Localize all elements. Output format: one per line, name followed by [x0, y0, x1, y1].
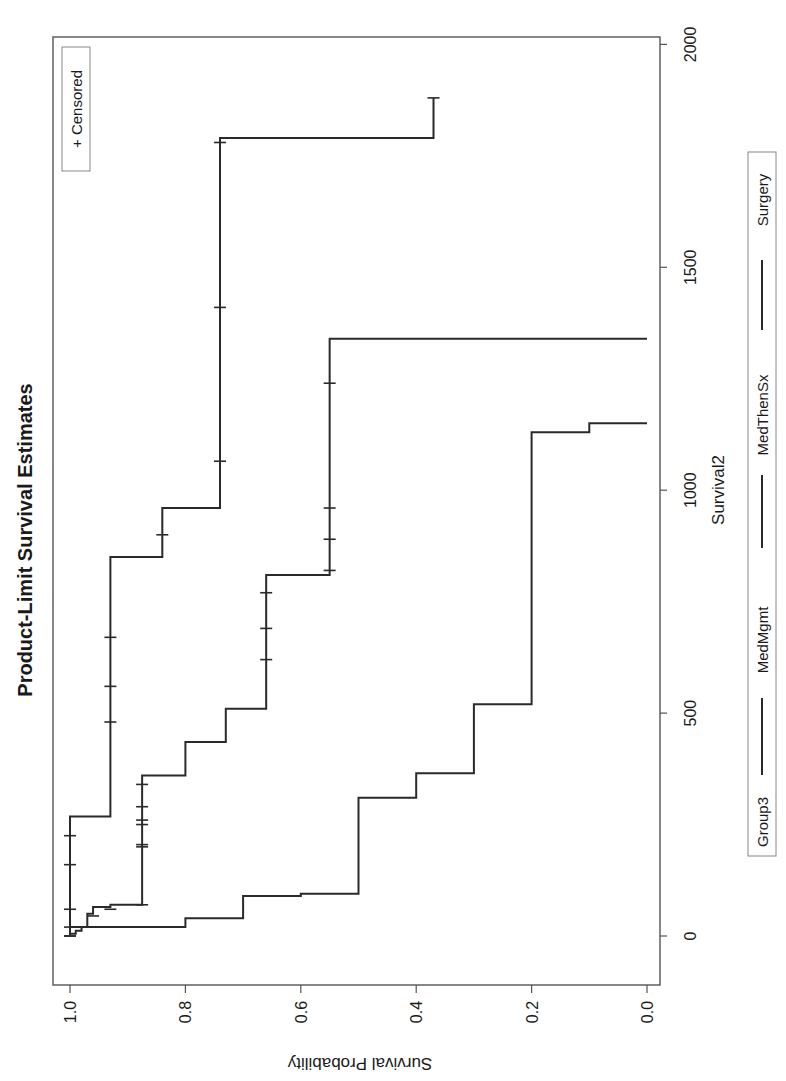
censored-legend: + Censored: [62, 47, 90, 171]
y-tick-label: 0.4: [408, 1001, 425, 1023]
y-axis: 0.00.20.40.60.81.0: [62, 985, 656, 1023]
legend-entry-medthensx: MedThenSx: [754, 374, 771, 455]
plot-frame: [53, 37, 660, 985]
x-axis-label: Survival2: [709, 455, 728, 525]
survival-curves: [64, 98, 647, 936]
y-axis-label: Survival Probability: [287, 1054, 432, 1073]
curve-medmgmt: [70, 423, 647, 936]
x-tick-label: 0: [682, 931, 699, 940]
x-tick-label: 1000: [682, 472, 699, 508]
x-tick-label: 2000: [682, 27, 699, 63]
survival-chart: Product-Limit Survival Estimates + Censo…: [0, 0, 786, 1081]
legend-title: Group3: [754, 797, 771, 847]
y-tick-label: 0.8: [177, 1001, 194, 1023]
x-tick-label: 1500: [682, 249, 699, 285]
y-tick-label: 0.2: [524, 1001, 541, 1023]
legend-entry-surgery: Surgery: [754, 173, 771, 226]
curve-surgery: [70, 98, 434, 936]
censored-legend-text: + Censored: [68, 70, 85, 148]
y-tick-label: 1.0: [62, 1001, 79, 1023]
x-tick-label: 500: [682, 700, 699, 727]
x-axis: 0500100015002000: [660, 27, 699, 941]
chart-title: Product-Limit Survival Estimates: [14, 383, 36, 696]
y-tick-label: 0.6: [293, 1001, 310, 1023]
group-legend: Group3MedMgmtMedThenSxSurgery: [748, 152, 776, 856]
legend-entry-medmgmt: MedMgmt: [754, 606, 771, 674]
y-tick-label: 0.0: [639, 1001, 656, 1023]
